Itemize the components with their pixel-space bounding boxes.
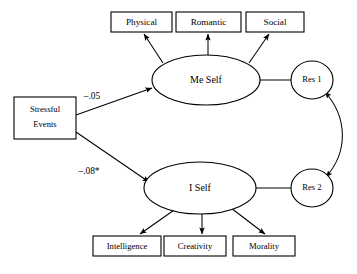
indicator-label-creativity: Creativity xyxy=(178,241,213,251)
sem-diagram: Physical Romantic Social Intelligence Cr… xyxy=(0,0,357,274)
coefficient-label-stressful-to-me-self: –.05 xyxy=(83,91,101,101)
coefficient-label-stressful-to-i-self: –.08* xyxy=(77,166,99,176)
predictor-label-line1: Stressful xyxy=(30,104,61,114)
path-me-self-to-physical xyxy=(144,34,163,63)
latent-label-me-self: Me Self xyxy=(190,74,223,85)
path-res1-res2-correlation xyxy=(325,92,342,177)
indicator-label-intelligence: Intelligence xyxy=(107,241,148,251)
predictor-label-line2: Events xyxy=(33,119,57,129)
path-i-self-to-morality xyxy=(231,208,265,234)
path-me-self-to-social xyxy=(249,34,269,63)
indicator-label-morality: Morality xyxy=(249,241,280,251)
residual-label-res-2: Res 2 xyxy=(302,182,321,192)
path-i-self-to-intelligence xyxy=(140,208,177,234)
sem-diagram-canvas: Physical Romantic Social Intelligence Cr… xyxy=(0,0,357,274)
indicator-label-romantic: Romantic xyxy=(191,17,227,27)
residual-label-res-1: Res 1 xyxy=(302,74,321,84)
indicator-label-social: Social xyxy=(264,17,287,27)
latent-label-i-self: I Self xyxy=(189,182,212,193)
indicator-label-physical: Physical xyxy=(126,17,158,27)
